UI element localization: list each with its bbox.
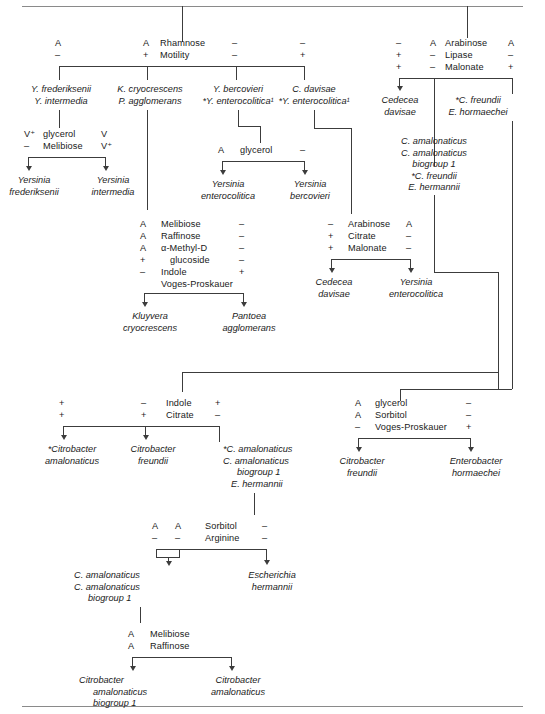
test-label-alpha-methyl-d: α-Methyl-D — [161, 243, 207, 255]
test-label-lipase: Lipase — [445, 50, 473, 62]
stem-amalonaticus-right-c — [498, 272, 499, 389]
sa-col1-row1: A — [152, 521, 158, 533]
endpoint-enterobacter-hormaechei: Enterobacter hormaechei — [450, 456, 503, 479]
sa-col3-row1: – — [262, 521, 267, 533]
gsv-left-2: – — [355, 422, 360, 434]
kp-right-4: + — [239, 267, 244, 279]
kp-right-0: – — [239, 219, 244, 231]
endpoint-yersinia-enterocolitica-right: Yersinia enterocolitica — [389, 277, 443, 300]
ic-b3 — [219, 426, 220, 442]
sa-bus — [156, 549, 266, 550]
gsv-bus — [358, 438, 470, 439]
group-davisae-pair: C. davisae *Y. enterocolitica¹ — [278, 84, 349, 107]
kp-right-2: – — [239, 243, 244, 255]
arabinose-branch-3 — [512, 78, 513, 94]
glycerol-yersinia-b1-arrow — [220, 170, 226, 175]
sa-col3-row2: – — [262, 533, 267, 545]
test-arabinose-col1-row1: – — [396, 38, 401, 50]
test-arabinose-col2-row2: – — [430, 50, 435, 62]
test-label-malonate: Malonate — [445, 62, 484, 74]
endpoint-citrobacter-amalonaticus-star: *Citrobacter amalonaticus — [45, 444, 99, 467]
rhamnose-branch-1 — [59, 66, 60, 80]
test-rhamnose-col4-row2: + — [300, 50, 305, 62]
test-glycerol-melibiose-col1-row1: V⁺ — [24, 129, 35, 141]
flowchart-canvas: A – A + Rhamnose Motility – – – + Y. fre… — [0, 0, 545, 714]
test-label-sorbitol-2: Sorbitol — [205, 521, 237, 533]
kp-left-3: + — [140, 255, 145, 267]
test-label-melibiose-1: Melibiose — [43, 141, 83, 153]
kp-b1-arrow — [142, 302, 148, 307]
group-freundii-hormaechei: *C. freundii E. hormaechei — [448, 95, 507, 118]
sa-b3-arrow — [264, 560, 270, 565]
acm-bus — [331, 259, 410, 260]
test-arabinose-col2-row1: A — [430, 38, 436, 50]
test-label-arabinose: Arabinose — [445, 38, 487, 50]
acm-b2-arrow — [408, 268, 414, 273]
test-label-raffinose-2: Raffinose — [150, 641, 190, 653]
kp-left-0: A — [140, 219, 146, 231]
gsv-left-0: A — [355, 398, 361, 410]
test-glycerol-melibiose-col2-row1: V — [101, 129, 107, 141]
mr-left-1: A — [128, 641, 134, 653]
acm-right-0: A — [406, 219, 412, 231]
arabinose-branch-1-arrow — [397, 86, 403, 91]
acm-left-2: + — [328, 243, 333, 255]
ic-b2-arrow — [143, 435, 149, 440]
test-arabinose-col3-row1: A — [508, 38, 514, 50]
acm-right-1: – — [406, 231, 411, 243]
endpoint-yersinia-intermedia: Yersinia intermedia — [92, 175, 135, 198]
test-label-motility: Motility — [160, 50, 189, 62]
stem-bercovieri-a — [238, 110, 239, 126]
gsv-right-0: – — [466, 398, 471, 410]
test-rhamnose-col1-row2: – — [55, 50, 60, 62]
glycerol-yersinia-bus — [222, 161, 304, 162]
glycerol-yersinia-b2-arrow — [302, 170, 308, 175]
ic-col1-row1: + — [59, 398, 64, 410]
test-label-voges-proskauer-2: Voges-Proskauer — [375, 422, 447, 434]
kp-right-1: – — [239, 231, 244, 243]
endpoint-citrobacter-freundii-right: Citrobacter freundii — [340, 456, 385, 479]
acm-left-0: – — [328, 219, 333, 231]
test-label-glycerol-1: glycerol — [43, 129, 75, 141]
stem-amalonaticus-pair — [140, 607, 141, 623]
rail-right-to-left-2 — [400, 389, 512, 390]
group-kluyvera-pantoea-pair: K. cryocrescens P. agglomerans — [117, 84, 182, 107]
ic-b1-arrow — [61, 435, 67, 440]
endpoint-kluyvera-cryocrescens: Kluyvera cryocrescens — [123, 311, 177, 334]
ic-bus — [63, 426, 219, 427]
group-yersinia-pair: Y. frederiksenii Y. intermedia — [31, 84, 91, 107]
test-label-indole-2: Indole — [166, 398, 192, 410]
sa-b2 — [179, 549, 180, 557]
group-bercovieri-pair: Y. bercovieri *Y. enterocolitica¹ — [202, 84, 273, 107]
endpoint-escherichia-hermannii: Escherichia hermannii — [248, 570, 296, 593]
stem-bercovieri-b — [238, 126, 260, 127]
gsv-b2-arrow — [468, 447, 474, 452]
test-label-rhamnose: Rhamnose — [160, 38, 205, 50]
sa-bracket-arrow — [166, 561, 172, 566]
endpoint-citrobacter-amalonaticus: Citrobacter amalonaticus — [211, 675, 265, 698]
arabinose-branch-bus — [399, 78, 512, 79]
gsv-b1-arrow — [356, 447, 362, 452]
sa-col2-row1: A — [175, 521, 181, 533]
test-label-citrate-1: Citrate — [348, 231, 376, 243]
test-label-indole-1: Indole — [161, 267, 187, 279]
test-glycerol-yersinia-col2: – — [300, 145, 305, 157]
top-rule — [22, 6, 523, 7]
endpoint-citrobacter-freundii-mid: Citrobacter freundii — [131, 444, 176, 467]
ic-col3-row1: + — [215, 398, 220, 410]
kp-left-1: A — [140, 231, 146, 243]
stem-davisae-b — [314, 128, 351, 129]
endpoint-citrobacter-amalonaticus-bio1: Citrobacter amalonaticus biogroup 1 — [79, 675, 147, 710]
acm-right-2: – — [406, 243, 411, 255]
glycerol-melibiose-b1-arrow — [26, 166, 32, 171]
group-amalonaticus-right: C. amalonaticus C. amalonaticus biogroup… — [401, 136, 467, 194]
rhamnose-branch-3 — [236, 66, 237, 80]
ic-col2-row1: – — [141, 398, 146, 410]
kp-left-4: – — [140, 267, 145, 279]
acm-b1-arrow — [329, 268, 335, 273]
sa-col1-row2: – — [152, 533, 157, 545]
stem-davisae-a — [314, 110, 315, 128]
test-label-glycerol-2: glycerol — [240, 145, 272, 157]
group-amalonaticus-pair: C. amalonaticus C. amalonaticus biogroup… — [74, 570, 140, 605]
test-label-melibiose-3: Melibiose — [150, 629, 190, 641]
